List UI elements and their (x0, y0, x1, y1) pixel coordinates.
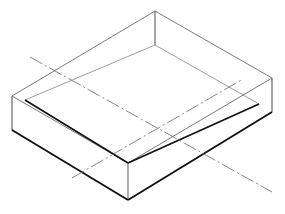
technical-drawing-canvas (0, 0, 285, 214)
vertical-edges-group (12, 11, 272, 200)
top-rim-outline (12, 11, 272, 163)
inner-floor-front-right-heavy (128, 104, 259, 163)
bottom-front-right-edge (128, 112, 272, 200)
isometric-box-drawing (0, 0, 285, 214)
inner-floor-group (25, 45, 259, 163)
inner-floor-outline (25, 45, 259, 163)
inner-floor-heavy-edges (25, 100, 259, 163)
top-rim-group (12, 11, 272, 163)
bottom-front-left-edge (12, 130, 128, 200)
centerline-minor-axis (72, 79, 243, 178)
inner-floor-front-left-heavy (25, 100, 128, 163)
